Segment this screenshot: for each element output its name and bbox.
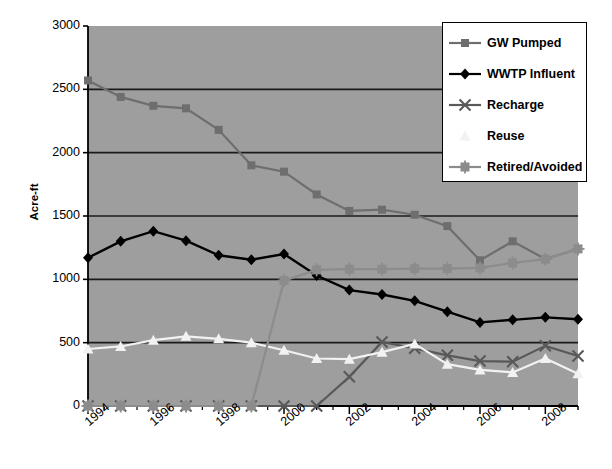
legend-marker-diamond-icon (443, 63, 487, 85)
series-retired-avoided (82, 242, 585, 412)
series-recharge (83, 337, 584, 412)
legend-item-reuse[interactable]: Reuse (443, 122, 588, 150)
legend-marker-square-plus-icon (443, 156, 487, 178)
legend-marker-x-icon (443, 94, 487, 116)
legend-marker-triangle-icon (443, 125, 487, 147)
series-wwtp-influent (83, 226, 583, 328)
legend-label: Recharge (487, 98, 544, 112)
series-reuse (83, 331, 584, 378)
legend-item-retired-avoided[interactable]: Retired/Avoided (443, 153, 588, 181)
legend-label: GW Pumped (487, 36, 561, 50)
chart-container: Acre-ft 050010001500200025003000 1994199… (0, 0, 612, 469)
legend-item-wwtp-influent[interactable]: WWTP Influent (443, 60, 588, 88)
legend-item-recharge[interactable]: Recharge (443, 91, 588, 119)
legend-item-gw-pumped[interactable]: GW Pumped (443, 29, 588, 57)
legend: GW Pumped WWTP Influent Recharge Reuse R… (442, 22, 587, 182)
legend-label: WWTP Influent (487, 67, 575, 81)
legend-marker-square-icon (443, 32, 487, 54)
legend-label: Retired/Avoided (487, 160, 582, 174)
legend-label: Reuse (487, 129, 525, 143)
